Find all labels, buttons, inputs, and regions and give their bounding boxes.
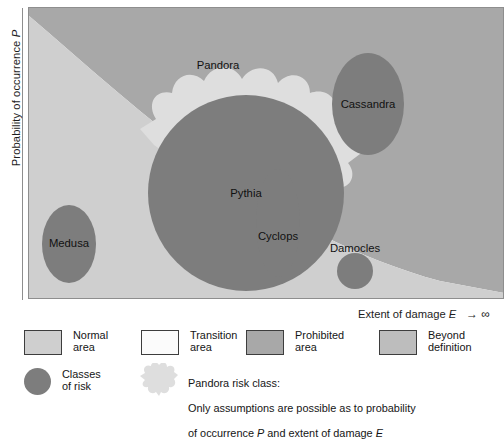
risk-class-cyclops[interactable] bbox=[256, 169, 300, 277]
pandora-legend-line3-b: and extent of damage bbox=[264, 427, 375, 439]
risk-class-damocles[interactable] bbox=[337, 253, 373, 289]
label-cassandra: Cassandra bbox=[341, 98, 396, 110]
risk-diagram-svg: Pandora Pythia Cassandra Cyclops Medusa … bbox=[28, 7, 504, 299]
x-axis-infinity-arrow: → ∞ bbox=[466, 307, 490, 321]
legend-swatch-prohibited-area bbox=[246, 330, 284, 355]
y-axis-symbol: P bbox=[10, 30, 22, 38]
plot-area: Pandora Pythia Cassandra Cyclops Medusa … bbox=[28, 7, 504, 299]
legend-label-beyond-definition: Beyond definition bbox=[428, 329, 472, 354]
x-axis-symbol: E bbox=[449, 308, 456, 320]
label-medusa: Medusa bbox=[49, 237, 90, 249]
x-axis-label: Extent of damage E bbox=[358, 308, 456, 320]
legend-item-transition-area: Transition area bbox=[141, 329, 237, 355]
legend-item-beyond-definition: Beyond definition bbox=[379, 329, 472, 355]
legend-item-pandora-risk-class: Pandora risk class: Only assumptions are… bbox=[139, 365, 416, 443]
x-axis-label-text: Extent of damage bbox=[358, 308, 449, 320]
legend-label-prohibited-area: Prohibited area bbox=[295, 329, 344, 354]
legend-label-normal-area: Normal area bbox=[73, 329, 108, 354]
legend-swatch-transition-area bbox=[141, 330, 179, 355]
legend-item-normal-area: Normal area bbox=[24, 329, 108, 355]
legend-label-pandora-risk-class: Pandora risk class: Only assumptions are… bbox=[188, 365, 416, 443]
legend-label-classes-of-risk: Classes of risk bbox=[62, 368, 101, 393]
label-pythia: Pythia bbox=[230, 187, 262, 199]
label-pandora: Pandora bbox=[197, 59, 240, 71]
legend-swatch-classes-of-risk bbox=[24, 368, 51, 395]
legend-label-transition-area: Transition area bbox=[190, 329, 237, 354]
pandora-legend-line3: of occurrence P and extent of damage E bbox=[188, 427, 416, 439]
pandora-legend-sym-e: E bbox=[376, 427, 383, 439]
legend-swatch-pandora-blob-icon bbox=[139, 363, 179, 397]
y-axis-label-text: Probability of occurrence bbox=[10, 37, 22, 166]
legend: Normal area Transition area Prohibited a… bbox=[0, 329, 504, 411]
legend-item-prohibited-area: Prohibited area bbox=[246, 329, 344, 355]
pandora-legend-line3-a: of occurrence bbox=[188, 427, 257, 439]
legend-item-classes-of-risk: Classes of risk bbox=[24, 368, 101, 395]
pandora-legend-title: Pandora risk class: bbox=[188, 377, 416, 389]
legend-swatch-beyond-definition bbox=[379, 330, 417, 355]
y-axis-label: Probability of occurrence P bbox=[10, 8, 22, 188]
pandora-legend-line2: Only assumptions are possible as to prob… bbox=[188, 402, 416, 414]
label-damocles: Damocles bbox=[330, 242, 381, 254]
label-cyclops: Cyclops bbox=[258, 230, 299, 242]
y-axis-rule bbox=[22, 8, 23, 300]
legend-swatch-normal-area bbox=[24, 330, 62, 355]
